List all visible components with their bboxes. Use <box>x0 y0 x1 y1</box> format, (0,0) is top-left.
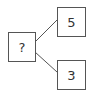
root-node-label: ? <box>19 40 26 55</box>
child-node-box-top: 5 <box>57 7 86 37</box>
root-node-box: ? <box>8 32 36 62</box>
child-node-box-bottom: 3 <box>57 60 86 90</box>
child-node-label-top: 5 <box>67 15 75 30</box>
connector-root-to-3 <box>35 52 57 72</box>
connector-root-to-5 <box>35 20 57 42</box>
child-node-label-bottom: 3 <box>67 68 75 83</box>
